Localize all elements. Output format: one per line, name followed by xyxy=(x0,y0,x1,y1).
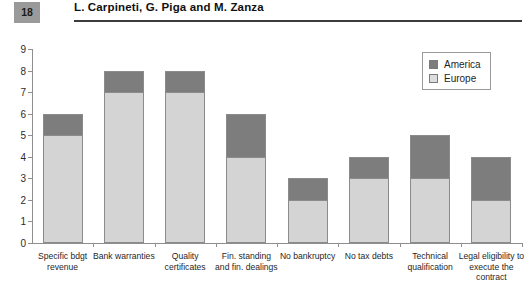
page-running-header: 18 L. Carpineti, G. Piga and M. Zanza xyxy=(0,0,531,30)
x-axis-category-label-line: contract xyxy=(443,272,531,283)
x-axis-tick xyxy=(155,243,156,247)
bar-segment-europe xyxy=(104,92,144,243)
header-authors: L. Carpineti, G. Piga and M. Zanza xyxy=(74,1,264,13)
x-axis-tick xyxy=(522,243,523,247)
y-axis-tick xyxy=(28,178,32,179)
x-axis-tick xyxy=(277,243,278,247)
bar-segment-europe xyxy=(471,200,511,243)
y-axis-tick-label: 0 xyxy=(20,238,26,249)
y-axis-tick xyxy=(28,71,32,72)
bar-segment-america xyxy=(104,71,144,93)
y-axis-tick-label: 8 xyxy=(20,65,26,76)
x-axis-tick xyxy=(461,243,462,247)
bar-segment-america xyxy=(226,114,266,157)
y-axis-tick xyxy=(28,221,32,222)
x-axis-category-label: Legal eligibility toexecute thecontract xyxy=(443,251,531,283)
bar-segment-europe xyxy=(288,200,328,243)
bar-segment-europe xyxy=(349,178,389,243)
y-axis-tick-label: 9 xyxy=(20,44,26,55)
stacked-bar-chart: 0123456789 Specific bdgtrevenueBank warr… xyxy=(0,30,531,278)
bar-stack xyxy=(288,178,328,243)
bar-segment-america xyxy=(43,114,83,136)
header-divider-rule xyxy=(74,20,522,22)
y-axis-tick-label: 7 xyxy=(20,87,26,98)
y-axis-tick xyxy=(28,200,32,201)
y-axis-tick xyxy=(28,49,32,50)
y-axis-tick-label: 3 xyxy=(20,173,26,184)
y-axis-tick xyxy=(28,243,32,244)
y-axis-tick xyxy=(28,135,32,136)
bar-stack xyxy=(43,114,83,243)
y-axis-tick-label: 2 xyxy=(20,194,26,205)
legend-item: Europe xyxy=(429,71,481,85)
folio-box: 18 xyxy=(14,2,40,23)
bar-segment-europe xyxy=(226,157,266,243)
bar-segment-america xyxy=(471,157,511,200)
x-axis-category-label-line: revenue xyxy=(15,262,111,273)
legend-item-label: Europe xyxy=(444,73,476,84)
bar-stack xyxy=(165,71,205,243)
legend-item: America xyxy=(429,57,481,71)
x-axis-tick xyxy=(338,243,339,247)
x-axis-tick xyxy=(400,243,401,247)
bar-segment-america xyxy=(288,178,328,200)
america-swatch xyxy=(429,60,438,69)
bar-segment-america xyxy=(349,157,389,179)
bar-segment-europe xyxy=(410,178,450,243)
bar-segment-europe xyxy=(43,135,83,243)
y-axis-tick-label: 5 xyxy=(20,130,26,141)
bar-stack xyxy=(471,157,511,243)
x-axis-category-label-line: and fin. dealings xyxy=(198,262,294,273)
y-axis-tick xyxy=(28,92,32,93)
x-axis-tick xyxy=(216,243,217,247)
y-axis-tick-label: 4 xyxy=(20,151,26,162)
bar-segment-europe xyxy=(165,92,205,243)
bar-segment-america xyxy=(410,135,450,178)
y-axis-tick-label: 1 xyxy=(20,216,26,227)
bar-segment-america xyxy=(165,71,205,93)
bar-stack xyxy=(104,71,144,243)
y-axis-tick xyxy=(28,157,32,158)
y-axis-tick-label: 6 xyxy=(20,108,26,119)
page-number: 18 xyxy=(14,2,40,23)
bar-stack xyxy=(410,135,450,243)
x-axis-category-label-line: Legal eligibility to xyxy=(443,251,531,262)
europe-swatch xyxy=(429,74,438,83)
bar-stack xyxy=(226,114,266,243)
x-axis-tick xyxy=(93,243,94,247)
x-axis-category-label-line: execute the xyxy=(443,262,531,273)
y-axis-tick xyxy=(28,114,32,115)
chart-legend: AmericaEurope xyxy=(422,52,491,90)
legend-item-label: America xyxy=(444,59,481,70)
bar-stack xyxy=(349,157,389,243)
